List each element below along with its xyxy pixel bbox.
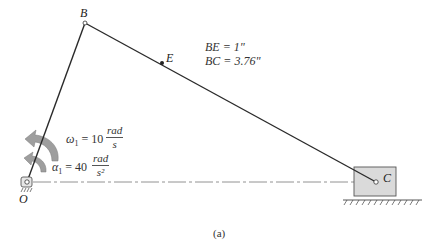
alpha-equation: α1 = 40	[52, 161, 87, 177]
label-c: C	[383, 172, 391, 184]
ground-hatch	[343, 200, 422, 205]
omega-value: = 10	[81, 132, 103, 146]
omega-units-den: s	[106, 138, 123, 150]
omega-equation: ω1 = 10	[66, 133, 103, 149]
point-e	[160, 61, 164, 65]
diagram-svg	[0, 0, 443, 245]
alpha-units-den: s²	[92, 166, 109, 178]
alpha-subscript: 1	[58, 167, 62, 176]
alpha-units-num: rad	[92, 153, 109, 166]
dimension-be: BE = 1"	[205, 41, 260, 55]
joint-c	[374, 180, 378, 184]
joint-b	[83, 21, 87, 25]
omega-units-num: rad	[106, 125, 123, 138]
figure-caption: (a)	[213, 227, 225, 239]
mechanism-diagram: B E C O BE = 1" BC = 3.76" ω1 = 10 rad s…	[0, 0, 443, 245]
dimension-bc: BC = 3.76"	[205, 55, 260, 69]
omega-subscript: 1	[74, 139, 78, 148]
ground-pivot-o	[21, 177, 32, 192]
alpha-value: = 40	[65, 160, 87, 174]
dimension-notes: BE = 1" BC = 3.76"	[205, 41, 260, 69]
label-b: B	[80, 7, 87, 19]
label-o: O	[19, 193, 28, 205]
alpha-units: rad s²	[92, 153, 109, 178]
omega-units: rad s	[106, 125, 123, 150]
label-e: E	[166, 52, 173, 64]
alpha-arrow-icon	[24, 152, 46, 172]
